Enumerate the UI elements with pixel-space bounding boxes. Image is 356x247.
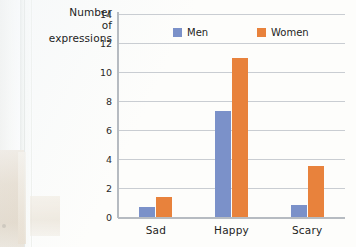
bar-women-scary[interactable] [308,166,324,217]
bar-men-sad[interactable] [139,207,155,217]
legend-swatch-men [173,28,182,37]
legend-label-men: Men [187,27,208,38]
gridline-0 [118,217,345,219]
bar-women-sad[interactable] [156,197,172,217]
x-tick-label-happy: Happy [214,224,249,236]
bar-men-happy[interactable] [215,111,231,217]
legend-item-men[interactable]: Men [173,27,208,38]
legend-swatch-women [257,28,266,37]
bar-women-happy[interactable] [232,58,248,218]
x-tick-label-sad: Sad [146,224,166,236]
legend-item-women[interactable]: Women [257,27,309,38]
bar-men-scary[interactable] [291,205,307,217]
bar-chart: Number of expressions 02468101214 SadHap… [0,0,356,247]
x-tick-label-scary: Scary [292,224,322,236]
legend-label-women: Women [271,27,309,38]
